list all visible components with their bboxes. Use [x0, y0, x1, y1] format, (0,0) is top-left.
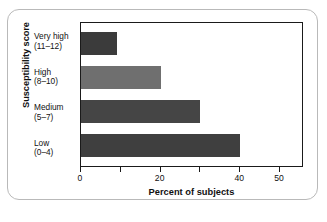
bar-slot [81, 129, 302, 163]
bar-very-high[interactable] [81, 32, 117, 55]
x-tick-label-20: 20 [155, 173, 165, 183]
y-axis-label-high: High (8–10) [34, 60, 79, 96]
bars-container [81, 23, 302, 166]
x-tick-0 [80, 167, 81, 172]
plot-area [80, 22, 303, 167]
x-tick-10 [120, 167, 121, 172]
bar-low[interactable] [81, 134, 240, 157]
y-axis-label-low: Low (0–4) [34, 131, 79, 167]
x-axis-title: Percent of subjects [80, 187, 303, 197]
y-axis-category-labels: Very high (11–12) High (8–10) Medium (5–… [34, 24, 79, 166]
bar-high[interactable] [81, 66, 161, 89]
x-tick-label-50: 50 [274, 173, 284, 183]
bar-slot [81, 26, 302, 60]
chart-figure: Susceptibility score Very high (11–12) H… [0, 0, 327, 222]
y-axis-label-very-high-range: (11–12) [34, 42, 62, 51]
bar-medium[interactable] [81, 100, 200, 123]
bar-slot [81, 60, 302, 94]
y-axis-label-low-range: (0–4) [34, 148, 53, 157]
bar-slot [81, 95, 302, 129]
x-tick-label-40: 40 [235, 173, 245, 183]
y-axis-label-high-range: (8–10) [34, 77, 58, 86]
x-tick-50 [279, 167, 280, 172]
x-tick-40 [239, 167, 240, 172]
y-axis-label-medium-range: (5–7) [34, 113, 53, 122]
x-tick-label-0: 0 [78, 173, 83, 183]
y-axis-title: Susceptibility score [21, 5, 31, 125]
x-axis-tick-labels: 0204050 [80, 173, 303, 186]
x-tick-20 [160, 167, 161, 172]
y-axis-label-medium: Medium (5–7) [34, 95, 79, 131]
y-axis-label-very-high: Very high (11–12) [34, 24, 79, 60]
x-tick-30 [199, 167, 200, 172]
